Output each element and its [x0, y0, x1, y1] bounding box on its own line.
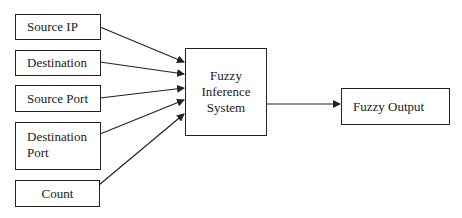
input-label-destination-port-line1: Destination	[27, 129, 100, 145]
edge-destination-port-to-fis	[100, 100, 184, 134]
fis-label-line1: Fuzzy	[210, 68, 242, 84]
input-box-source-ip: Source IP	[15, 14, 101, 40]
fuzzy-output-box: Fuzzy Output	[341, 88, 450, 125]
input-box-source-port: Source Port	[15, 85, 101, 112]
input-label-destination: Destination	[27, 55, 87, 71]
input-label-destination-port-line2: Port	[27, 145, 100, 161]
fis-label-line3: System	[207, 100, 245, 116]
fuzzy-output-label: Fuzzy Output	[353, 99, 424, 115]
edge-source-port-to-fis	[100, 88, 184, 98]
fis-label-line2: Inference	[201, 84, 250, 100]
edge-count-to-fis	[99, 114, 184, 185]
input-label-count: Count	[42, 186, 74, 202]
edge-destination-to-fis	[100, 62, 184, 74]
input-box-count: Count	[15, 180, 100, 207]
fuzzy-inference-system-box: Fuzzy Inference System	[185, 48, 267, 136]
edge-source-ip-to-fis	[100, 27, 184, 62]
input-label-source-ip: Source IP	[27, 19, 78, 35]
input-box-destination-port: Destination Port	[15, 122, 101, 170]
input-box-destination: Destination	[15, 50, 101, 76]
input-label-source-port: Source Port	[27, 91, 88, 107]
